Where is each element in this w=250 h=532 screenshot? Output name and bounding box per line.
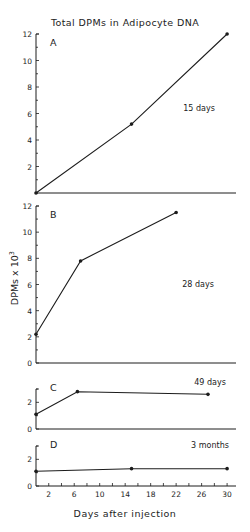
y-tick-label: 12 [22, 30, 32, 39]
data-point [34, 470, 38, 474]
panel-label-B: B [50, 209, 57, 220]
y-tick-label: 10 [22, 228, 32, 237]
y-axis-label: DPMs x 103 [8, 238, 20, 318]
y-tick-label: 10 [22, 57, 32, 66]
y-tick-label: 4 [27, 307, 32, 316]
x-tick-label: 18 [146, 490, 156, 499]
y-axis-label-text: DPMs x 10 [9, 255, 20, 305]
x-tick-label: 6 [72, 490, 77, 499]
y-tick-label: 0 [27, 359, 32, 368]
panel-label-C: C [50, 382, 57, 393]
data-point [76, 390, 80, 394]
x-tick-label: 26 [197, 490, 207, 499]
panel-annotation-C: 49 days [194, 378, 226, 387]
data-point [225, 32, 229, 36]
panel-label-A: A [50, 37, 57, 48]
x-tick-label: 22 [171, 490, 181, 499]
y-tick-label: 2 [27, 398, 32, 407]
data-line-B [36, 213, 176, 335]
panel-label-D: D [50, 439, 57, 450]
data-point [34, 191, 38, 195]
data-point [130, 467, 134, 471]
panel-annotation-A: 15 days [183, 104, 215, 113]
data-line-C [36, 392, 208, 415]
x-axis-label: Days after injection [0, 508, 250, 519]
y-tick-label: 2 [27, 333, 32, 342]
y-tick-label: 12 [22, 202, 32, 211]
y-tick-label: 2 [27, 163, 32, 172]
y-axis-label-exponent: 3 [8, 251, 16, 255]
data-line-A [36, 34, 227, 193]
data-point [34, 413, 38, 417]
data-point [34, 332, 38, 336]
x-tick-label: 30 [222, 490, 232, 499]
data-point [206, 393, 210, 397]
data-point [225, 467, 229, 471]
figure: Total DPMs in Adipocyte DNA 24681012A15 … [0, 0, 250, 532]
data-point [130, 122, 134, 126]
y-tick-label: 0 [27, 482, 32, 491]
panel-annotation-B: 28 days [182, 280, 214, 289]
y-tick-label: 2 [27, 455, 32, 464]
y-tick-label: 6 [27, 110, 32, 119]
x-tick-label: 10 [95, 490, 105, 499]
x-tick-label: 14 [120, 490, 130, 499]
y-tick-label: 6 [27, 281, 32, 290]
y-tick-label: 8 [27, 83, 32, 92]
data-point [174, 211, 178, 215]
y-tick-label: 4 [27, 136, 32, 145]
y-tick-label: 8 [27, 254, 32, 263]
plot-area: 24681012A15 days024681012B28 days02C49 d… [0, 0, 250, 532]
data-point [79, 259, 83, 263]
x-tick-label: 2 [46, 490, 51, 499]
y-tick-label: 0 [27, 425, 32, 434]
panel-annotation-D: 3 months [191, 441, 229, 450]
